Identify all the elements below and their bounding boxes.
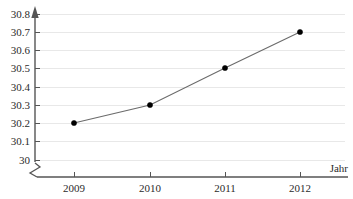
y-axis-arrowhead xyxy=(31,6,38,18)
x-axis-label-2011: 2011 xyxy=(214,182,236,194)
y-axis-label-30-5: 30.5 xyxy=(11,62,31,74)
y-axis-label-30-8: 30.8 xyxy=(11,8,31,20)
x-axis xyxy=(37,172,348,177)
data-point-2010 xyxy=(147,102,152,107)
x-axis-label-2012: 2012 xyxy=(289,182,311,194)
y-axis xyxy=(30,6,40,177)
y-axis-label-30-7: 30.7 xyxy=(11,26,31,38)
x-axis-labels: 2009 2010 2011 2012 xyxy=(63,182,311,194)
data-point-2009 xyxy=(71,120,76,125)
y-axis-break-symbol xyxy=(30,163,40,177)
y-axis-label-30-4: 30.4 xyxy=(11,81,31,93)
data-point-2012 xyxy=(297,29,302,34)
data-markers xyxy=(71,29,302,125)
data-series-line xyxy=(74,32,300,123)
x-axis-label-2010: 2010 xyxy=(139,182,162,194)
y-axis-label-30-3: 30.3 xyxy=(11,99,31,111)
y-axis-label-30-0: 30 xyxy=(19,154,31,166)
y-axis-label-30-6: 30.6 xyxy=(11,44,31,56)
chart-plot-area: 30.8 30.7 30.6 30.5 30.4 30.3 30.2 30.1 … xyxy=(0,0,353,199)
gridlines xyxy=(35,14,345,160)
y-axis-label-30-2: 30.2 xyxy=(11,117,30,129)
x-axis-title: Jahr xyxy=(330,162,349,174)
line-chart: 30.8 30.7 30.6 30.5 30.4 30.3 30.2 30.1 … xyxy=(0,0,353,199)
y-axis-label-30-1: 30.1 xyxy=(11,135,30,147)
y-axis-labels: 30.8 30.7 30.6 30.5 30.4 30.3 30.2 30.1 … xyxy=(11,8,31,166)
data-point-2011 xyxy=(222,65,227,70)
x-axis-label-2009: 2009 xyxy=(63,182,86,194)
